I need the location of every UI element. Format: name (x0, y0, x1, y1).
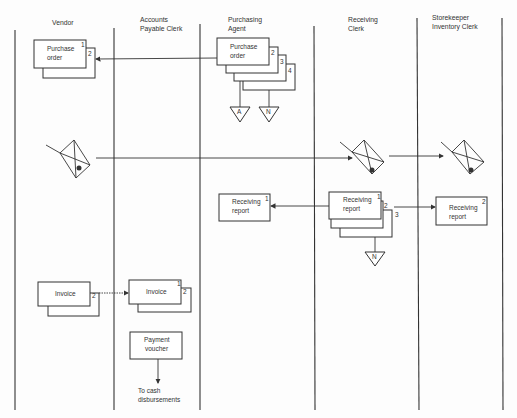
terminal-label-line2: disbursements (138, 396, 181, 403)
payment-voucher: Payment voucher (130, 332, 182, 359)
svg-text:2: 2 (92, 292, 96, 299)
svg-text:report: report (449, 213, 466, 221)
svg-text:Purchase: Purchase (47, 45, 75, 52)
svg-text:report: report (232, 207, 249, 215)
file-symbol-receiving: N (365, 252, 385, 266)
svg-text:Invoice: Invoice (146, 288, 167, 295)
svg-text:1: 1 (377, 193, 381, 200)
lane-header-ap-line1: Accounts (140, 16, 169, 23)
svg-text:voucher: voucher (145, 345, 169, 352)
svg-text:2: 2 (271, 49, 275, 56)
svg-text:1: 1 (265, 195, 269, 202)
ap-invoice: Invoice 1 2 (129, 280, 191, 312)
vendor-purchase-order: Purchase order 1 2 (34, 40, 95, 78)
purchasing-agent-receiving-report: Receiving report 1 (219, 194, 270, 221)
svg-text:1: 1 (177, 280, 181, 287)
terminal-label-line1: To cash (138, 387, 161, 394)
lane-header-purchasing-line1: Purchasing (228, 16, 262, 24)
lane-header-purchasing-line2: Agent (228, 25, 246, 33)
purchasing-flowchart: Vendor Accounts Payable Clerk Purchasing… (0, 0, 517, 418)
goods-cart-icon-storekeeper (441, 140, 484, 174)
svg-text:order: order (230, 52, 246, 59)
svg-text:order: order (47, 54, 63, 61)
lane-header-receiving-line1: Receiving (348, 16, 378, 24)
svg-text:N: N (372, 253, 377, 260)
storekeeper-receiving-report: Receiving report 2 (436, 197, 487, 225)
svg-text:Purchase: Purchase (230, 43, 258, 50)
lane-header-vendor: Vendor (52, 19, 74, 26)
lane-header-ap-line2: Payable Clerk (140, 25, 183, 33)
lane-header-storekeeper-line2: Inventory Clerk (432, 23, 478, 31)
svg-text:2: 2 (384, 202, 388, 209)
svg-text:3: 3 (395, 211, 399, 218)
flowchart-canvas: Vendor Accounts Payable Clerk Purchasing… (0, 0, 517, 418)
svg-text:report: report (343, 205, 360, 213)
goods-cart-icon-receiving (340, 140, 384, 174)
svg-text:3: 3 (280, 58, 284, 65)
lane-header-storekeeper-line1: Storekeeper (432, 14, 470, 22)
svg-text:Payment: Payment (144, 336, 170, 344)
file-symbols-purchasing: A N (230, 107, 279, 122)
svg-text:Invoice: Invoice (55, 290, 76, 297)
svg-text:2: 2 (88, 50, 92, 57)
svg-text:Receiving: Receiving (449, 204, 478, 212)
receiving-clerk-receiving-report-stack: Receiving report 1 2 3 (329, 192, 399, 252)
svg-text:Receiving: Receiving (343, 196, 372, 204)
goods-cart-icon-vendor (46, 140, 90, 178)
lane-header-receiving-line2: Clerk (348, 25, 364, 32)
svg-text:1: 1 (81, 41, 85, 48)
svg-text:2: 2 (482, 198, 486, 205)
svg-text:2: 2 (183, 288, 187, 295)
vendor-invoice: Invoice 2 (38, 282, 99, 316)
svg-text:N: N (266, 108, 271, 115)
svg-text:Receiving: Receiving (232, 198, 261, 206)
purchasing-agent-purchase-order-stack: Purchase order 2 3 4 (217, 38, 295, 107)
lane-headers: Vendor Accounts Payable Clerk Purchasing… (52, 14, 478, 33)
svg-text:A: A (237, 108, 242, 115)
svg-text:4: 4 (288, 67, 292, 74)
